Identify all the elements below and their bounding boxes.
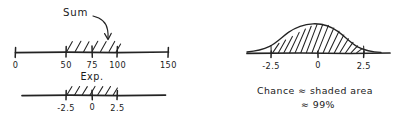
expected-value-axis-label: Exp. [81,71,104,82]
statistics-figure: 0 50 75 100 150 Exp. Sum -2.5 0 2.5 -2.5… [0,0,398,122]
tick-label-su-zero: 0 [89,102,95,112]
standard-units-axis-line [22,95,166,96]
expected-value-axis-group [15,16,168,57]
standard-units-axis-group [22,86,166,99]
tick-label-curve-zero: 0 [315,60,321,70]
tick-label-exp-75: 75 [87,60,98,70]
tick-label-exp-100: 100 [109,60,126,70]
tick-label-curve-pos2-5: 2.5 [357,61,371,71]
tick-label-exp-0: 0 [13,60,19,70]
expected-value-hatching [67,41,121,52]
normal-curve-group [247,24,390,58]
normal-curve-hatching [273,24,362,53]
tick-label-su-pos2-5: 2.5 [110,103,124,113]
tick-label-curve-neg2-5: -2.5 [262,61,280,71]
tick-label-su-neg2-5: -2.5 [57,103,75,113]
sum-callout-label: Sum [63,7,88,18]
chance-caption-line-1: Chance ≈ shaded area [257,85,373,96]
tick-label-exp-50: 50 [61,60,72,70]
sum-callout-arrow [93,16,111,40]
tick-label-exp-150: 150 [160,60,177,70]
chance-caption-line-2: ≈ 99% [301,99,335,110]
